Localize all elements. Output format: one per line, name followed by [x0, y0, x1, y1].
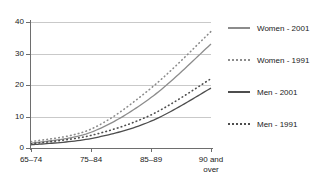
y-tick-40	[26, 22, 31, 23]
x-tick-3	[211, 148, 212, 152]
legend-label-men-2001: Men - 2001	[257, 88, 297, 97]
y-tick-label-20: 20	[0, 81, 24, 89]
legend-item-men-1991[interactable]: Men - 1991	[228, 118, 297, 130]
x-tick-label-2-line-0: 85–89	[140, 155, 162, 164]
y-tick-20	[26, 85, 31, 86]
legend-item-women-2001[interactable]: Women - 2001	[228, 22, 309, 34]
line-chart: 40 30 20 10 0 65–74 75–84 85–89 90 and o…	[0, 0, 318, 188]
legend-label-men-1991: Men - 1991	[257, 120, 297, 129]
y-tick-label-40: 40	[0, 18, 24, 26]
x-tick-label-3-line-0: 90 and	[188, 155, 234, 165]
y-tick-30	[26, 54, 31, 55]
x-tick-1	[91, 148, 92, 152]
legend-label-women-2001: Women - 2001	[257, 24, 309, 33]
y-tick-label-10: 10	[0, 113, 24, 121]
x-tick-label-1: 75–84	[68, 155, 114, 165]
legend-swatch-women-2001	[228, 27, 250, 29]
legend-swatch-men-2001	[228, 91, 250, 93]
legend-item-men-2001[interactable]: Men - 2001	[228, 86, 297, 98]
plot-area	[31, 22, 211, 148]
series-line-men-2001	[31, 88, 211, 145]
legend-item-women-1991[interactable]: Women - 1991	[228, 54, 309, 66]
y-tick-label-30: 30	[0, 50, 24, 58]
x-tick-0	[31, 148, 32, 152]
x-tick-label-0: 65–74	[8, 155, 54, 165]
x-tick-label-3: 90 and over	[188, 155, 234, 175]
series-line-women-2001	[31, 44, 211, 143]
series-layer	[31, 22, 211, 148]
x-tick-label-2: 85–89	[128, 155, 174, 165]
y-tick-10	[26, 117, 31, 118]
x-axis-line	[31, 148, 213, 149]
x-tick-label-0-line-0: 65–74	[20, 155, 42, 164]
series-line-women-1991	[31, 31, 211, 141]
legend-label-women-1991: Women - 1991	[257, 56, 309, 65]
x-tick-label-3-line-1: over	[188, 165, 234, 175]
x-tick-label-1-line-0: 75–84	[80, 155, 102, 164]
legend-swatch-men-1991	[228, 123, 250, 125]
x-tick-2	[151, 148, 152, 152]
legend-swatch-women-1991	[228, 59, 250, 61]
y-tick-label-0: 0	[0, 144, 24, 152]
